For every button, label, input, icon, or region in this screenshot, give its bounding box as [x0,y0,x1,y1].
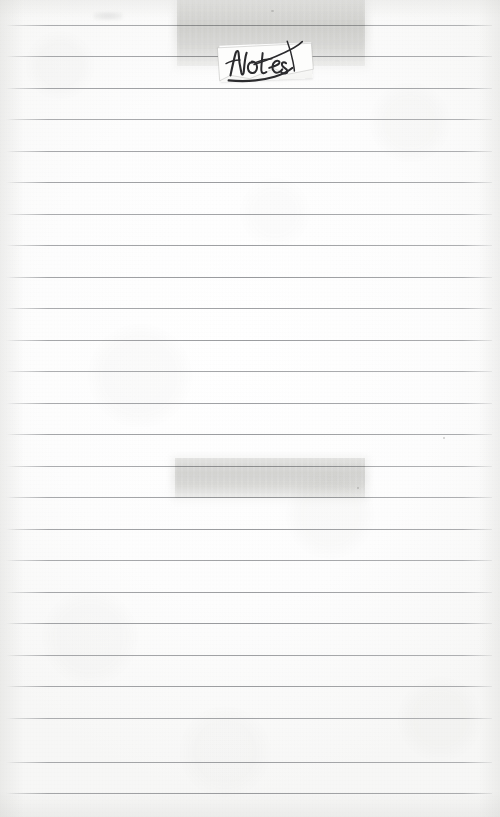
tape-strip-middle-halo [171,455,369,502]
ruled-line [6,214,492,215]
ruled-line [6,793,492,794]
notes-label-text: Notes [219,46,220,47]
handwritten-notes-text [215,38,327,88]
ruled-line [6,497,492,498]
ruled-line [6,434,492,435]
ruled-line [6,371,492,372]
speck-mid-right [357,487,359,489]
ruled-line [6,245,492,246]
ruled-line [6,182,492,183]
notes-label: Notes [219,42,312,82]
ruled-line [6,277,492,278]
ruled-line [6,592,492,593]
ruled-line [6,623,492,624]
ruled-lines-layer [0,0,500,817]
smudge-top-left [93,12,123,20]
ruled-line [6,718,492,719]
label-torn-edge-icon [215,42,317,90]
ruled-line [6,151,492,152]
ruled-line [6,529,492,530]
speck-upper-right [443,437,445,439]
ruled-line [6,340,492,341]
scan-vignette [0,0,500,817]
ruled-line [6,119,492,120]
speck-upper-center [271,10,274,12]
notebook-page: Notes [0,0,500,817]
ruled-line [6,686,492,687]
ruled-line [6,308,492,309]
ruled-line [6,466,492,467]
ruled-line [6,560,492,561]
ruled-line [6,25,492,26]
ruled-line [6,88,492,89]
tape-strip-middle [175,458,365,498]
ruled-line [6,403,492,404]
paper-fiber-texture [0,0,500,817]
ruled-line [6,655,492,656]
paper-grain-texture [0,0,500,817]
ruled-line [6,762,492,763]
